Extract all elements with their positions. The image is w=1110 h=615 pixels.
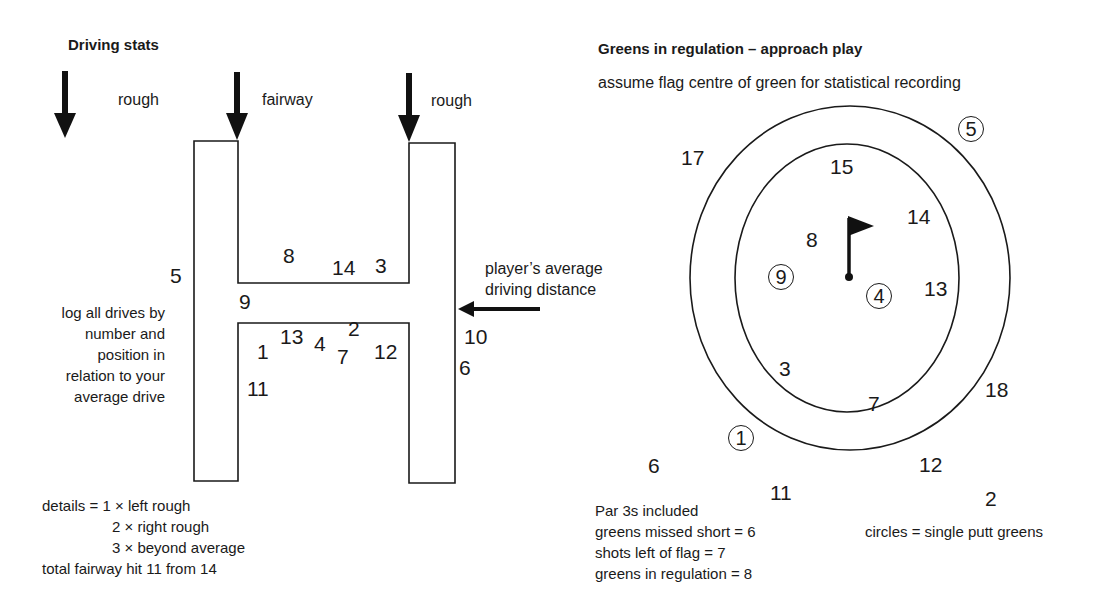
arrow-left-icon-average-distance: [458, 301, 540, 317]
green-shot-number: 17: [681, 146, 704, 170]
drive-number: 9: [239, 290, 251, 314]
arrow-down-icon-left-rough: [54, 71, 76, 138]
arrow-down-icon-fairway: [226, 72, 248, 140]
green-shot-circled: 1: [728, 425, 754, 451]
drive-number: 14: [332, 256, 355, 280]
green-shot-circled: 4: [866, 283, 892, 309]
drive-number: 3: [375, 254, 387, 278]
green-shot-number: 3: [779, 357, 791, 381]
drive-number: 13: [280, 325, 303, 349]
green-shot-number: 6: [648, 454, 660, 478]
greens-subtitle: assume flag centre of green for statisti…: [598, 74, 961, 92]
drive-logging-instruction: log all drives by number and position in…: [10, 302, 165, 407]
drive-number: 4: [314, 332, 326, 356]
green-shot-circled: 9: [768, 264, 794, 290]
green-shot-number: 2: [985, 487, 997, 511]
drive-number: 5: [170, 264, 182, 288]
greens-notes: Par 3s included greens missed short = 6 …: [595, 500, 756, 584]
drive-number: 8: [283, 244, 295, 268]
drive-number: 7: [337, 345, 349, 369]
fairway-h-shape: [194, 141, 455, 483]
drive-number: 11: [247, 377, 269, 401]
green-shot-number: 13: [924, 277, 947, 301]
label-left-rough: rough: [118, 91, 159, 109]
flag-icon: [845, 216, 874, 281]
circles-legend: circles = single putt greens: [865, 522, 1043, 541]
green-shot-number: 12: [919, 453, 942, 477]
greens-title: Greens in regulation – approach play: [598, 40, 862, 57]
green-shot-number: 8: [806, 228, 818, 252]
drive-number: 12: [374, 340, 397, 364]
label-right-rough: rough: [431, 92, 472, 110]
green-shot-number: 7: [868, 392, 880, 416]
drive-number: 1: [257, 340, 269, 364]
average-distance-label: player’s average driving distance: [485, 258, 603, 300]
arrow-down-icon-right-rough: [398, 73, 420, 142]
drive-number: 10: [464, 325, 487, 349]
green-shot-number: 18: [985, 378, 1008, 402]
green-shot-number: 15: [830, 155, 853, 179]
green-shot-number: 14: [907, 205, 930, 229]
green-shot-circled: 5: [958, 116, 984, 142]
driving-details: details = 1 × left rough 2 × right rough…: [42, 495, 245, 579]
label-fairway: fairway: [262, 91, 313, 109]
drive-number: 6: [459, 356, 471, 380]
green-shot-number: 11: [770, 481, 792, 505]
drive-number: 2: [348, 317, 360, 341]
